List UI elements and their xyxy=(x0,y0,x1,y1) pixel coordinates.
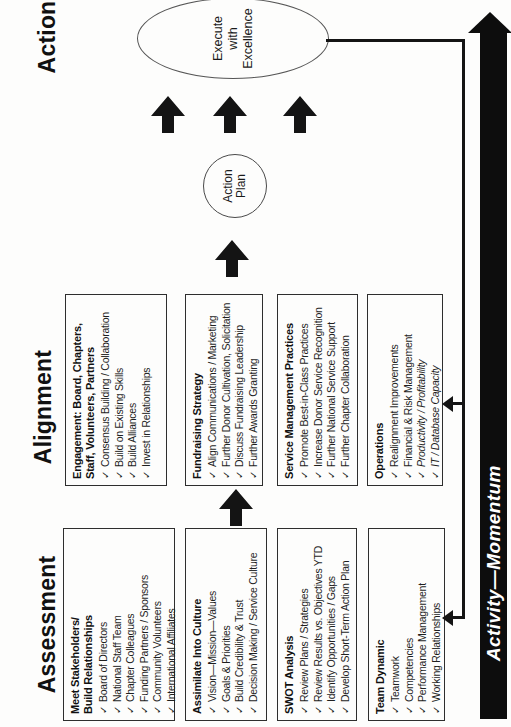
checklist-item: ✓Increase Donor Service Recognition xyxy=(312,301,326,479)
item-text: Working Relationships xyxy=(430,603,443,702)
item-text: Productivity / Profitability xyxy=(415,360,428,467)
feedback-arrowhead-team-dynamic-icon xyxy=(442,610,453,626)
checklist-item: ✓National Staff Team xyxy=(111,535,125,714)
item-text: Consensus Building / Collaboration xyxy=(99,312,112,467)
checklist-item: ✓Board of Directors xyxy=(97,535,111,714)
checklist-item: ✓Align Communications / Marketing xyxy=(206,301,220,479)
momentum-arrowhead-icon xyxy=(468,12,511,33)
check-icon: ✓ xyxy=(125,702,138,714)
title-line: Service Management Practices xyxy=(283,301,296,479)
item-text: Invest in Relationships xyxy=(140,368,153,467)
item-text: Further Donor Cultivation, Solicitation xyxy=(220,303,233,467)
item-text: Build on Existing Skills xyxy=(113,368,126,467)
check-icon: ✓ xyxy=(404,702,417,714)
check-icon: ✓ xyxy=(299,702,312,714)
item-text: Align Communications / Marketing xyxy=(206,316,219,467)
checklist-item: ✓Competencies xyxy=(403,535,417,714)
box-title: Meet Stakeholders/ Build Relationships xyxy=(69,535,95,714)
checklist: ✓Realignment Improvements ✓Financial & R… xyxy=(388,301,442,479)
checklist-item: ✓Funding Partners / Sponsors xyxy=(138,535,152,714)
execute-excellence-ellipse: Execute with Excellence xyxy=(137,0,329,79)
ellipse-line: Excellence xyxy=(241,8,256,68)
checklist-item: ✓Performance Management xyxy=(416,535,430,714)
check-icon: ✓ xyxy=(416,467,429,479)
check-icon: ✓ xyxy=(403,467,416,479)
title-line: Assimilate Into Culture xyxy=(191,535,204,714)
item-text: Funding Partners / Sponsors xyxy=(138,575,151,702)
checklist-item: ✓Invest in Relationships xyxy=(140,301,154,479)
title-line: Engagement: Board, Chapters, xyxy=(71,301,84,479)
checklist-item: ✓Further Awards Granting xyxy=(247,301,261,479)
item-text: Review Plans / Strategies xyxy=(298,589,311,702)
checklist-item: ✓Further Donor Cultivation, Solicitation xyxy=(220,301,234,479)
checklist-item: ✓Further National Service Support xyxy=(325,301,339,479)
box-title: Operations xyxy=(373,301,386,479)
item-text: Build Alliances xyxy=(126,403,139,467)
box-swot-analysis: SWOT Analysis ✓Review Plans / Strategies… xyxy=(277,528,357,721)
item-text: Financial & Risk Management xyxy=(402,334,415,467)
check-icon: ✓ xyxy=(389,467,402,479)
feedback-line-run xyxy=(462,39,465,619)
flow-arrow-assessment-to-alignment-icon xyxy=(218,488,254,526)
check-icon: ✓ xyxy=(299,467,312,479)
box-service-management: Service Management Practices ✓Promote Be… xyxy=(277,294,358,486)
checklist-item: ✓Chapter Colleagues xyxy=(124,535,138,714)
check-icon: ✓ xyxy=(127,467,140,479)
check-icon: ✓ xyxy=(114,467,127,479)
checklist: ✓Review Plans / Strategies ✓Review Resul… xyxy=(298,535,352,714)
item-text: Discuss Fundraising Leadership xyxy=(233,325,246,467)
check-icon: ✓ xyxy=(417,702,430,714)
title-line: SWOT Analysis xyxy=(283,535,296,714)
box-title: Assimilate Into Culture xyxy=(191,535,204,714)
check-icon: ✓ xyxy=(98,702,111,714)
item-text: Community Volunteers xyxy=(151,601,164,702)
feedback-line-drop xyxy=(326,39,465,42)
check-icon: ✓ xyxy=(248,702,261,714)
check-icon: ✓ xyxy=(390,702,403,714)
checklist-item: ✓Vision—Mission—Values xyxy=(206,535,220,714)
check-icon: ✓ xyxy=(207,702,220,714)
checklist-item: ✓Build Credibility & Trust xyxy=(233,535,247,714)
title-line: Meet Stakeholders/ xyxy=(69,535,82,714)
check-icon: ✓ xyxy=(340,702,353,714)
item-text: Performance Management xyxy=(416,583,429,702)
item-text: Further Chapter Collaboration xyxy=(339,335,352,467)
item-text: Build Credibility & Trust xyxy=(233,600,246,702)
heading-assessment: Assessment xyxy=(34,528,61,721)
title-line: Build Relationships xyxy=(82,535,95,714)
check-icon: ✓ xyxy=(221,702,234,714)
check-icon: ✓ xyxy=(234,467,247,479)
item-text: Chapter Colleagues xyxy=(124,614,137,702)
item-text: Develop Short-Term Action Plan xyxy=(339,561,352,702)
item-text: Promote Best-in-Class Practices xyxy=(298,324,311,467)
check-icon: ✓ xyxy=(166,702,179,714)
item-text: Goals & Priorities xyxy=(220,625,233,702)
box-team-dynamic: Team Dynamic ✓Teamwork ✓Competencies ✓Pe… xyxy=(368,528,445,721)
item-text: Realignment Improvements xyxy=(388,345,401,467)
checklist-item: ✓Review Plans / Strategies xyxy=(298,535,312,714)
action-plan-circle: Action Plan xyxy=(203,154,267,218)
flow-arrow-to-ellipse-middle-icon xyxy=(212,95,248,133)
check-icon: ✓ xyxy=(313,467,326,479)
box-assimilate-culture: Assimilate Into Culture ✓Vision—Mission—… xyxy=(185,528,267,721)
check-icon: ✓ xyxy=(326,467,339,479)
box-meet-stakeholders: Meet Stakeholders/ Build Relationships ✓… xyxy=(63,528,175,721)
item-text: Competencies xyxy=(403,638,416,702)
checklist-item: ✓Community Volunteers xyxy=(151,535,165,714)
item-text: Review Results vs. Objectives YTD xyxy=(312,546,325,702)
feedback-arrowhead-operations-icon xyxy=(442,396,453,412)
checklist-item: ✓Goals & Priorities xyxy=(220,535,234,714)
feedback-stem-operations xyxy=(452,402,464,405)
checklist: ✓Promote Best-in-Class Practices ✓Increa… xyxy=(298,301,352,479)
title-line: Fundraising Strategy xyxy=(191,301,204,479)
item-text: Teamwork xyxy=(389,656,402,702)
check-icon: ✓ xyxy=(313,702,326,714)
item-text: Decision Making / Service Culture xyxy=(247,553,260,702)
box-title: SWOT Analysis xyxy=(283,535,296,714)
item-text: National Staff Team xyxy=(111,616,124,703)
ellipse-line: Execute xyxy=(211,16,226,61)
item-text: Board of Directors xyxy=(97,622,110,702)
checklist-item: ✓Productivity / Profitability xyxy=(415,301,429,479)
box-title: Fundraising Strategy xyxy=(191,301,204,479)
flow-arrow-to-ellipse-bottom-icon xyxy=(282,95,318,133)
